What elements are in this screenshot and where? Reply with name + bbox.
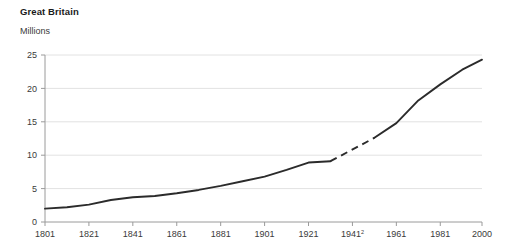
x-tick-label: 1821 [79, 229, 99, 239]
y-tick-label: 10 [27, 150, 37, 160]
x-tick-label: 1981 [430, 229, 450, 239]
data-line-segment [374, 60, 482, 138]
x-tick-label: 19412 [341, 229, 364, 240]
x-axis [45, 222, 482, 226]
gridlines [45, 55, 482, 189]
x-tick-label: 1901 [255, 229, 275, 239]
x-tick-label: 1841 [123, 229, 143, 239]
data-line-solid [45, 60, 482, 209]
x-tick-label: 1801 [35, 229, 55, 239]
x-tick-label: 1921 [299, 229, 319, 239]
chart-container: Great Britain Millions 0510152025 180118… [0, 0, 510, 248]
y-axis [41, 55, 45, 222]
y-tick-label: 20 [27, 84, 37, 94]
data-line-segment [45, 161, 330, 208]
interpolated-dashed-line [330, 138, 374, 161]
y-tick-label: 25 [27, 50, 37, 60]
x-tick-label: 2000 [472, 229, 492, 239]
y-tick-label: 0 [32, 217, 37, 227]
data-line-dashed-interpolated [330, 138, 374, 161]
x-tick-label: 1961 [386, 229, 406, 239]
x-tick-footnote-marker: 2 [361, 229, 364, 235]
y-tick-labels: 0510152025 [27, 50, 37, 227]
y-tick-label: 5 [32, 184, 37, 194]
y-tick-label: 15 [27, 117, 37, 127]
x-tick-label: 1881 [211, 229, 231, 239]
x-tick-labels: 1801182118411861188119011921194121961198… [35, 229, 492, 240]
chart-plot-area: 0510152025 18011821184118611881190119211… [0, 0, 510, 248]
x-tick-label: 1861 [167, 229, 187, 239]
